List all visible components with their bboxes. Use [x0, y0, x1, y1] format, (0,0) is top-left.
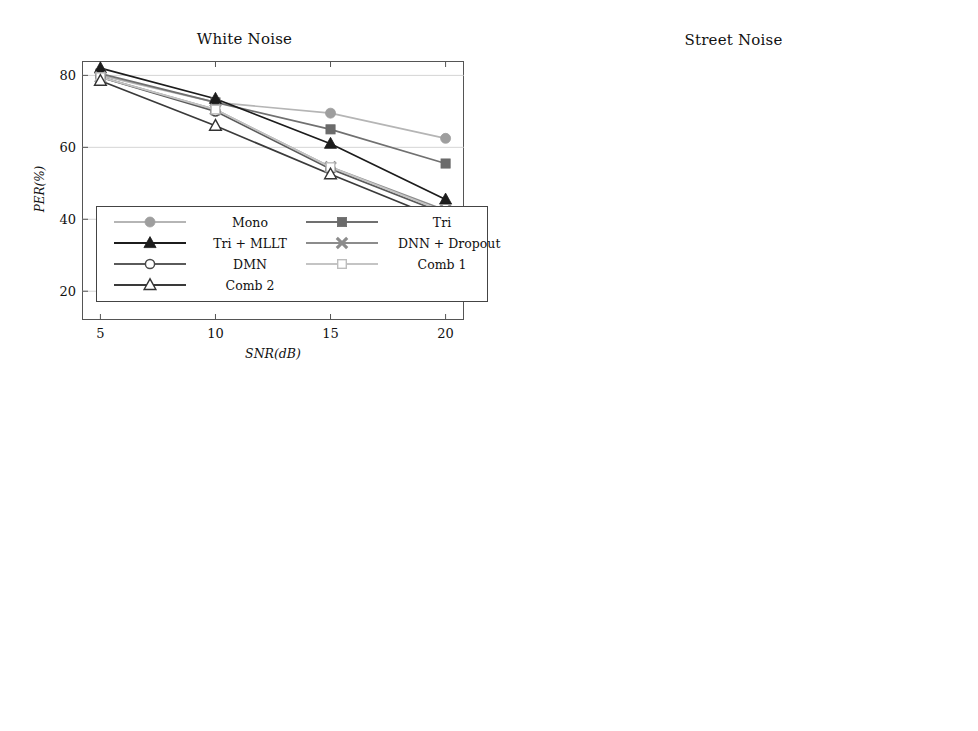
legend-marker-filled-circle — [102, 212, 206, 232]
legend-label: Tri + MLLT — [206, 236, 294, 251]
panel-title: Street Noise — [489, 31, 978, 49]
legend-label: Comb 1 — [398, 257, 486, 272]
series-line — [100, 77, 445, 210]
legend-label: Comb 2 — [206, 278, 294, 293]
panel-background-music: Background Music4060805101520SNR(dB)PER(… — [0, 366, 489, 731]
legend-label: DMN — [206, 257, 294, 272]
series-marker — [441, 159, 450, 168]
series-marker — [211, 105, 220, 114]
x-axis-tick-label: 5 — [96, 326, 104, 341]
x-axis-tick-label: 20 — [437, 326, 454, 341]
legend-marker-cross-x — [294, 233, 398, 253]
series-line — [100, 77, 445, 212]
legend-spacer — [294, 275, 398, 295]
legend-marker-open-circle — [102, 254, 206, 274]
series-line — [100, 75, 445, 138]
panel-title: White Noise — [0, 30, 489, 48]
series-marker — [326, 125, 335, 134]
x-axis-label: SNR(dB) — [82, 346, 464, 361]
x-axis-tick-label: 10 — [207, 326, 224, 341]
y-axis-tick-label: 80 — [44, 68, 76, 83]
series-line — [100, 81, 445, 221]
legend-label: Mono — [206, 215, 294, 230]
y-axis-label: PER(%) — [33, 153, 47, 225]
panel-white-noise: White Noise204060805101520SNR(dB)PER(%)M… — [0, 0, 489, 366]
series-marker — [441, 133, 451, 143]
series-marker — [440, 193, 452, 204]
panel-street-noise: Street Noise40605101520SNR(dB)PER(%) — [489, 0, 978, 366]
panel-interfering-speaker: Interfering Speaker40605101520SNR(dB)PER… — [489, 366, 978, 731]
series-line — [100, 77, 445, 214]
legend-marker-filled-square — [294, 212, 398, 232]
y-axis-tick-label: 60 — [44, 140, 76, 155]
legend-label: Tri — [398, 215, 486, 230]
legend-label: DNN + Dropout — [398, 236, 486, 251]
legend-marker-filled-triangle — [102, 233, 206, 253]
chart-figure-grid: White Noise204060805101520SNR(dB)PER(%)M… — [0, 0, 978, 731]
x-axis-tick-label: 15 — [322, 326, 339, 341]
legend-marker-open-triangle — [102, 275, 206, 295]
y-axis-tick-label: 20 — [44, 284, 76, 299]
legend-marker-open-square — [294, 254, 398, 274]
legend: MonoTriTri + MLLTDNN + DropoutDMNComb 1C… — [96, 206, 488, 302]
series-marker — [326, 108, 336, 118]
y-axis-tick-label: 40 — [44, 212, 76, 227]
